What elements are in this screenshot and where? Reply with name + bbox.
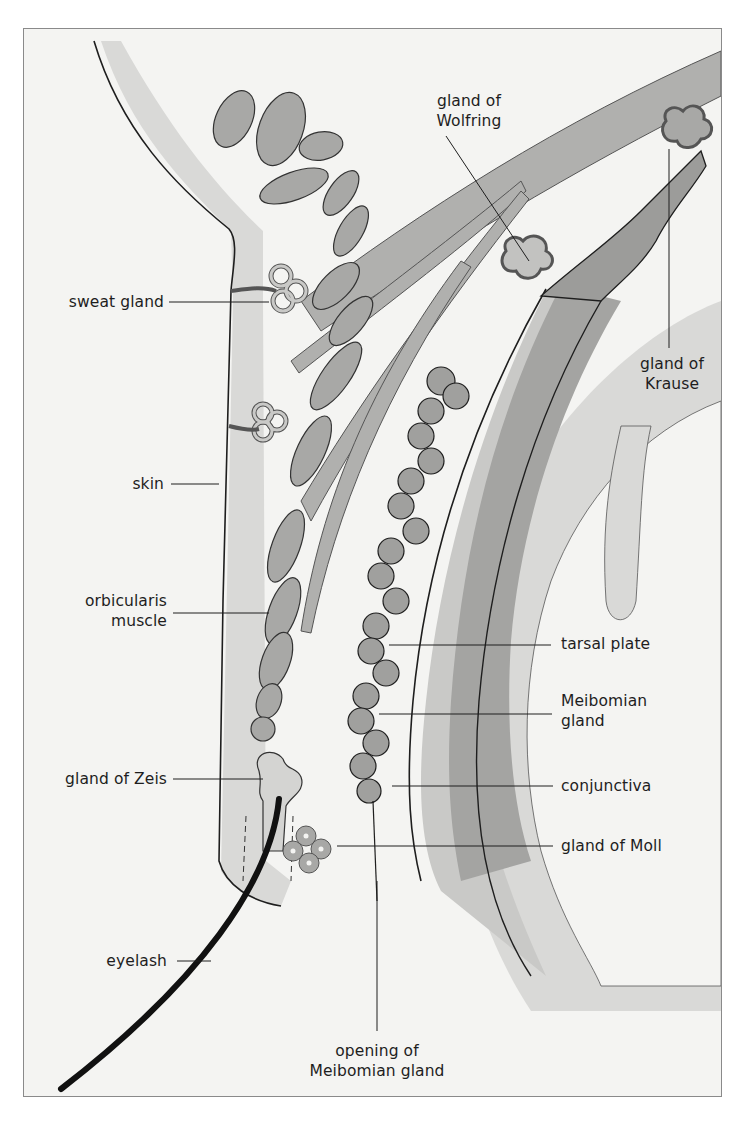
label-orbicularis-muscle: orbicularis muscle [24,591,167,631]
label-line: gland of [409,91,529,111]
label-gland-of-krause: gland of Krause [627,354,717,394]
label-gland-of-moll: gland of Moll [561,836,662,856]
label-line: opening of [307,1041,447,1061]
label-opening-of-meibomian-gland: opening of Meibomian gland [307,1041,447,1081]
label-line: gland [561,711,647,731]
label-eyelash: eyelash [24,951,167,971]
label-skin: skin [24,474,164,494]
label-gland-of-wolfring: gland of Wolfring [409,91,529,131]
label-line: gland of [627,354,717,374]
label-meibomian-gland: Meibomian gland [561,691,647,731]
eyelid-diagram-frame: gland of Wolfring gland of Krause sweat … [23,28,722,1097]
label-line: Wolfring [409,111,529,131]
label-line: Meibomian gland [307,1061,447,1081]
label-tarsal-plate: tarsal plate [561,634,650,654]
label-line: Meibomian [561,691,647,711]
label-line: orbicularis [24,591,167,611]
gland-of-wolfring-shape [502,236,552,278]
eyelid-cross-section-illustration [24,29,721,1096]
label-line: Krause [627,374,717,394]
label-conjunctiva: conjunctiva [561,776,651,796]
meibomian-duct [373,801,377,901]
label-sweat-gland: sweat gland [24,292,164,312]
gland-of-krause-shape [663,106,712,148]
label-line: muscle [24,611,167,631]
label-gland-of-zeis: gland of Zeis [24,769,167,789]
gland-of-moll-cluster [283,826,331,873]
